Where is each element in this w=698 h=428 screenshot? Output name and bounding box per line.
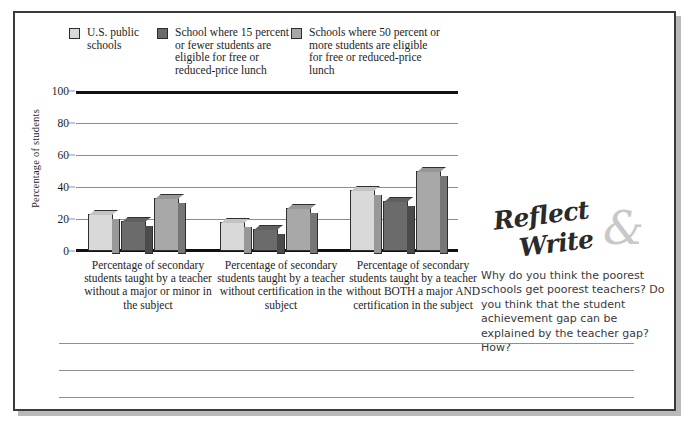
- bar: [253, 229, 278, 251]
- category-label: Percentage of secondary students taught …: [78, 259, 218, 312]
- y-axis-label: Percentage of students: [30, 99, 41, 219]
- logo-ampersand-icon: &: [603, 205, 644, 251]
- bar-top-face: [254, 225, 283, 230]
- y-tick-mark: [69, 123, 75, 124]
- bar-group: [350, 91, 449, 251]
- bar-top-face: [384, 197, 413, 202]
- bar: [220, 222, 245, 251]
- bar-side-face: [112, 219, 120, 254]
- y-tick-label: 40: [58, 181, 70, 193]
- y-tick-mark: [69, 91, 75, 92]
- y-tick-label: 100: [52, 85, 69, 97]
- bar: [383, 201, 408, 251]
- plot-area: 020406080100: [76, 91, 458, 251]
- bar: [350, 190, 375, 251]
- bar-top-face: [89, 210, 118, 215]
- y-tick-label: 80: [58, 117, 70, 129]
- bar-top-face: [221, 218, 250, 223]
- y-tick-mark: [69, 219, 75, 220]
- bar: [416, 171, 441, 251]
- bar-side-face: [277, 234, 285, 254]
- bar-side-face: [310, 213, 318, 254]
- y-tick-mark: [69, 155, 75, 156]
- reflect-and-write-logo: Reflect & Write: [481, 199, 661, 265]
- reflect-and-write-panel: Reflect & Write Why do you think the poo…: [481, 199, 667, 355]
- bar-side-face: [244, 227, 252, 254]
- y-tick-label: 0: [63, 245, 69, 257]
- bar: [121, 221, 146, 251]
- bar-side-face: [178, 203, 186, 254]
- category-label: Percentage of secondary students taught …: [211, 259, 351, 312]
- bar: [88, 214, 113, 251]
- y-tick-label: 60: [58, 149, 70, 161]
- bar-side-face: [145, 226, 153, 254]
- category-label: Percentage of secondary students taught …: [342, 259, 484, 312]
- writing-line: [59, 343, 634, 344]
- y-tick-label: 20: [58, 213, 70, 225]
- bar: [154, 198, 179, 251]
- figure-page: U.S. public schools School where 15 perc…: [13, 11, 676, 411]
- y-tick-mark: [69, 251, 75, 252]
- bar-group: [220, 91, 319, 251]
- bar-top-face: [351, 186, 380, 191]
- bar-top-face: [287, 204, 316, 209]
- writing-line: [59, 397, 634, 398]
- bar-top-face: [122, 217, 151, 222]
- bar-top-face: [417, 167, 446, 172]
- writing-line: [59, 370, 634, 371]
- bar-side-face: [407, 206, 415, 254]
- bar-top-face: [155, 194, 184, 199]
- bar-side-face: [440, 176, 448, 254]
- bar-side-face: [374, 195, 382, 254]
- bar: [286, 208, 311, 251]
- y-tick-mark: [69, 187, 75, 188]
- bar-group: [88, 91, 187, 251]
